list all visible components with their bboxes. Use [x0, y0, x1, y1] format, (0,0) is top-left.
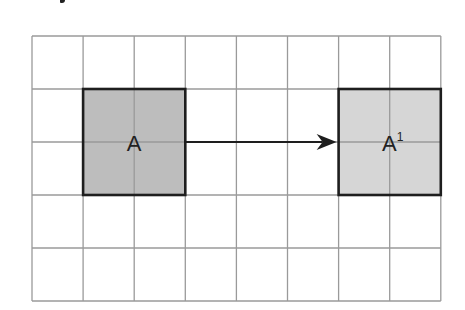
shape-label-a-prime: A1	[382, 133, 403, 155]
shape-label-a: A	[127, 133, 142, 155]
